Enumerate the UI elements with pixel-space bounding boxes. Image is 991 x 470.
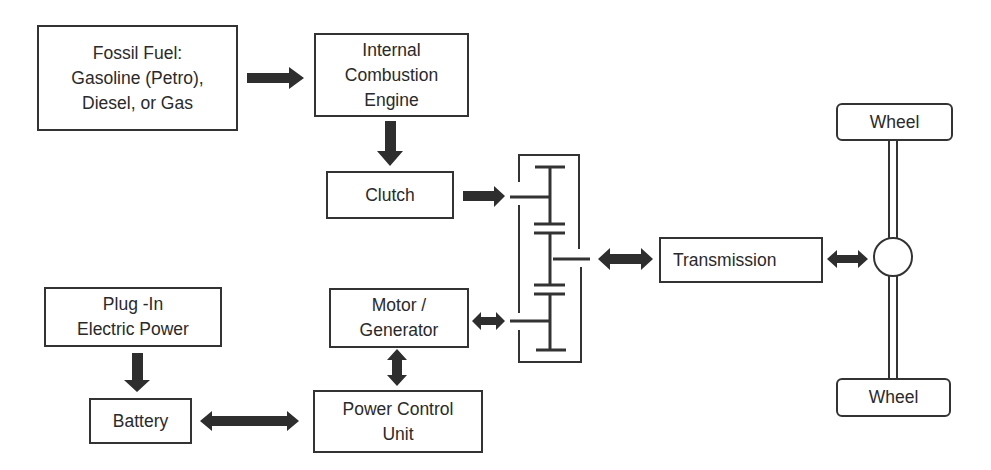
arrow-battery-pcu (200, 411, 299, 431)
gearset-frame (510, 155, 590, 362)
axle (874, 140, 912, 378)
arrow-mg-pcu (387, 349, 407, 386)
arrow-plugin-to-battery (124, 353, 150, 392)
node-wheel-top: Wheel (836, 103, 953, 141)
node-internal-combustion-engine: Internal Combustion Engine (314, 33, 469, 117)
node-clutch: Clutch (326, 171, 454, 219)
node-motor-generator: Motor / Generator (329, 288, 469, 348)
node-wheel-bottom: Wheel (836, 378, 951, 417)
node-power-control-unit: Power Control Unit (313, 390, 483, 453)
node-transmission: Transmission (659, 237, 823, 283)
node-plug-in-electric-power: Plug -In Electric Power (44, 287, 222, 347)
node-battery: Battery (89, 398, 192, 444)
arrow-mg-gearset (472, 312, 505, 330)
arrow-ice-to-clutch (377, 121, 403, 166)
arrow-gearset-transmission (598, 248, 653, 270)
arrow-fossil-to-ice (247, 67, 304, 89)
arrow-transmission-axle (827, 250, 868, 268)
node-fossil-fuel: Fossil Fuel: Gasoline (Petro), Diesel, o… (37, 25, 238, 131)
arrow-clutch-to-gearset (463, 186, 505, 207)
